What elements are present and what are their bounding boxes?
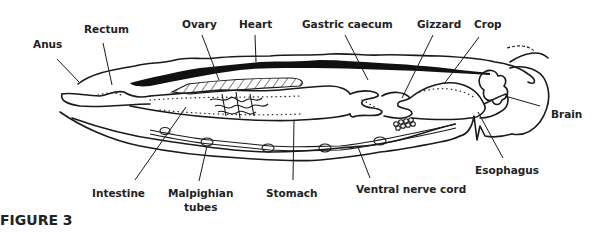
- label-ventral-nerve-cord: Ventral nerve cord: [356, 183, 466, 195]
- heart-vessel: [130, 60, 490, 86]
- ganglion-cells: [394, 118, 416, 131]
- leader-crop: [444, 37, 479, 84]
- figure-caption: FIGURE 3: [0, 212, 73, 228]
- leader-heart: [255, 35, 256, 62]
- midgut-lower: [130, 106, 350, 121]
- label-malpighian-line2: tubes: [184, 201, 217, 213]
- leader-rectum: [103, 43, 112, 85]
- leader-gastric-caecum: [345, 35, 368, 80]
- leader-malpighian: [199, 146, 207, 181]
- label-esophagus: Esophagus: [475, 164, 539, 176]
- label-ovary: Ovary: [182, 18, 217, 30]
- crop-dots: [420, 89, 475, 98]
- leader-ventral-nerve-cord: [358, 147, 370, 178]
- label-gizzard: Gizzard: [417, 18, 461, 30]
- label-intestine: Intestine: [92, 187, 145, 199]
- ovary: [172, 78, 302, 94]
- leader-stomach: [293, 120, 294, 180]
- grasshopper-anatomy-diagram: Anus Rectum Ovary Heart Gastric caecum G…: [0, 0, 607, 232]
- head-antenna-outline: [510, 53, 548, 62]
- leader-anus: [57, 59, 79, 82]
- label-crop: Crop: [474, 18, 502, 30]
- label-malpighian-line1: Malpighian: [168, 187, 233, 199]
- leader-brain: [505, 96, 540, 106]
- head-capsule: [510, 67, 549, 135]
- midgut-dots: [150, 96, 300, 100]
- mouthparts: [460, 116, 512, 140]
- label-heart: Heart: [239, 18, 272, 30]
- gastric-caecum-2: [382, 92, 412, 118]
- leader-esophagus: [478, 112, 503, 158]
- label-gastric-caecum: Gastric caecum: [302, 18, 393, 30]
- ventral-nerve-cord: [150, 124, 456, 147]
- rectum: [62, 91, 150, 96]
- label-anus: Anus: [33, 38, 62, 50]
- label-rectum: Rectum: [84, 23, 129, 35]
- head-dashed-outline: [507, 46, 535, 52]
- gastric-caecum: [350, 91, 382, 117]
- label-stomach: Stomach: [266, 187, 318, 199]
- label-brain: Brain: [551, 108, 582, 120]
